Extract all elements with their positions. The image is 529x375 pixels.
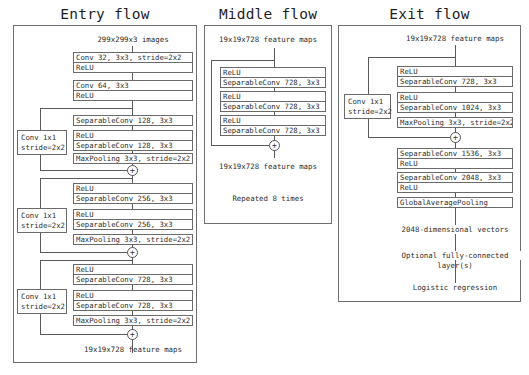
entry-block-sepconv256-b: ReLU SeparableConv 256, 3x3: [73, 209, 193, 230]
layer-label: ReLU: [74, 291, 192, 300]
layer-label: SeparableConv 256, 3x3: [74, 219, 192, 229]
entry-skip-conv-3: Conv 1x1 stride=2x2: [17, 289, 67, 314]
layer-label: ReLU: [221, 92, 325, 101]
entry-block-maxpool-3: MaxPooling 3x3, stride=2x2: [73, 315, 193, 326]
entry-skip-conv-1: Conv 1x1 stride=2x2: [17, 130, 67, 155]
entry-branch-line-2: [40, 178, 132, 179]
exit-block-globalavgpool: GlobalAveragePooling: [397, 197, 513, 208]
skip-conv-label: Conv 1x1: [21, 292, 66, 302]
middle-merge-line: [211, 145, 269, 146]
layer-label: ReLU: [398, 158, 512, 168]
repeat-note: Repeated 8 times: [206, 194, 330, 203]
entry-branch-line-3: [40, 260, 132, 261]
add-icon: +: [450, 132, 461, 143]
skip-conv-label: Conv 1x1: [21, 211, 66, 221]
skip-conv-stride: stride=2x2: [21, 143, 66, 153]
entry-merge-line-2: [40, 252, 128, 253]
fc-label-line2: layer(s): [396, 261, 514, 270]
layer-label: ReLU: [74, 131, 192, 140]
exit-output-label: Logistic regression: [396, 283, 514, 292]
add-icon: +: [127, 165, 138, 176]
layer-label: ReLU: [74, 210, 192, 219]
layer-label: SeparableConv 728, 3x3: [221, 125, 325, 135]
skip-conv-stride: stride=2x2: [21, 221, 66, 231]
layer-label: ReLU: [398, 67, 512, 76]
entry-merge-line-3: [40, 334, 128, 335]
layer-label: ReLU: [398, 93, 512, 102]
skip-conv-label: Conv 1x1: [21, 133, 66, 143]
layer-label: ReLU: [74, 265, 192, 274]
layer-label: SeparableConv 728, 3x3: [221, 101, 325, 111]
layer-label: MaxPooling 3x3, stride=2x2: [74, 235, 192, 244]
exit-block-sepconv728: ReLU SeparableConv 728, 3x3: [397, 66, 513, 87]
entry-block-sepconv128-b: ReLU SeparableConv 128, 3x3: [73, 130, 193, 151]
skip-conv-stride: stride=2x2: [348, 107, 390, 117]
middle-block-2: ReLU SeparableConv 728, 3x3: [220, 91, 326, 112]
middle-skip-line: [211, 60, 212, 145]
layer-label: SeparableConv 128, 3x3: [74, 140, 192, 150]
layer-label: ReLU: [74, 184, 192, 193]
layer-label: GlobalAveragePooling: [398, 198, 512, 207]
exit-flow-title: Exit flow: [338, 6, 521, 22]
exit-block-maxpool: MaxPooling 3x3, stride=2x2: [397, 117, 513, 128]
layer-label: SeparableConv 728, 3x3: [74, 274, 192, 284]
exit-block-sepconv2048: SeparableConv 2048, 3x3 ReLU: [397, 172, 513, 193]
layer-label: Conv 64, 3x3: [74, 81, 192, 90]
fc-label-line1: Optional fully-connected: [385, 251, 525, 260]
exit-input-label: 19x19x728 feature maps: [396, 34, 514, 43]
entry-output-label: 19x19x728 feature maps: [73, 345, 193, 354]
add-icon: +: [269, 140, 280, 151]
vector-label: 2048-dimensional vectors: [396, 225, 514, 234]
layer-label: SeparableConv 728, 3x3: [221, 77, 325, 87]
entry-block-maxpool-1: MaxPooling 3x3, stride=2x2: [73, 153, 193, 164]
entry-block-conv64: Conv 64, 3x3 ReLU: [73, 80, 193, 101]
entry-merge-line-1: [40, 170, 128, 171]
entry-block-sepconv256-a: ReLU SeparableConv 256, 3x3: [73, 183, 193, 204]
entry-skip-conv-2: Conv 1x1 stride=2x2: [17, 208, 67, 233]
exit-branch-line: [368, 57, 455, 58]
add-icon: +: [127, 329, 138, 340]
add-icon: +: [127, 247, 138, 258]
entry-block-conv32: Conv 32, 3x3, stride=2x2 ReLU: [73, 52, 193, 73]
exit-block-sepconv1024: ReLU SeparableConv 1024, 3x3: [397, 92, 513, 113]
layer-label: SeparableConv 1536, 3x3: [398, 149, 512, 158]
skip-conv-stride: stride=2x2: [21, 302, 66, 312]
layer-label: ReLU: [74, 62, 192, 72]
entry-flow-title: Entry flow: [13, 6, 197, 22]
middle-block-1: ReLU SeparableConv 728, 3x3: [220, 67, 326, 88]
middle-flow-title: Middle flow: [204, 6, 332, 22]
layer-label: SeparableConv 728, 3x3: [398, 76, 512, 86]
entry-block-sepconv728-a: ReLU SeparableConv 728, 3x3: [73, 264, 193, 285]
middle-block-3: ReLU SeparableConv 728, 3x3: [220, 115, 326, 136]
entry-block-sepconv728-b: ReLU SeparableConv 728, 3x3: [73, 290, 193, 311]
layer-label: SeparableConv 128, 3x3: [74, 116, 192, 125]
layer-label: MaxPooling 3x3, stride=2x2: [74, 154, 192, 163]
layer-label: SeparableConv 256, 3x3: [74, 193, 192, 203]
exit-skip-conv: Conv 1x1 stride=2x2: [344, 94, 391, 119]
exit-merge-line: [368, 137, 450, 138]
layer-label: SeparableConv 2048, 3x3: [398, 173, 512, 182]
layer-label: ReLU: [221, 68, 325, 77]
middle-input-label: 19x19x728 feature maps: [206, 35, 330, 44]
layer-label: ReLU: [74, 90, 192, 100]
layer-label: MaxPooling 3x3, stride=2x2: [398, 118, 512, 127]
layer-label: ReLU: [398, 182, 512, 192]
entry-block-maxpool-2: MaxPooling 3x3, stride=2x2: [73, 234, 193, 245]
middle-output-label: 19x19x728 feature maps: [206, 162, 330, 171]
layer-label: MaxPooling 3x3, stride=2x2: [74, 316, 192, 325]
layer-label: ReLU: [221, 116, 325, 125]
middle-branch-line: [211, 60, 274, 61]
entry-input-label: 299x299x3 images: [73, 35, 193, 44]
exit-block-sepconv1536: SeparableConv 1536, 3x3 ReLU: [397, 148, 513, 169]
entry-block-sepconv128-a: SeparableConv 128, 3x3: [73, 115, 193, 126]
layer-label: SeparableConv 728, 3x3: [74, 300, 192, 310]
entry-branch-line-1: [40, 108, 132, 109]
layer-label: SeparableConv 1024, 3x3: [398, 102, 512, 112]
layer-label: Conv 32, 3x3, stride=2x2: [74, 53, 192, 62]
skip-conv-label: Conv 1x1: [348, 97, 390, 107]
